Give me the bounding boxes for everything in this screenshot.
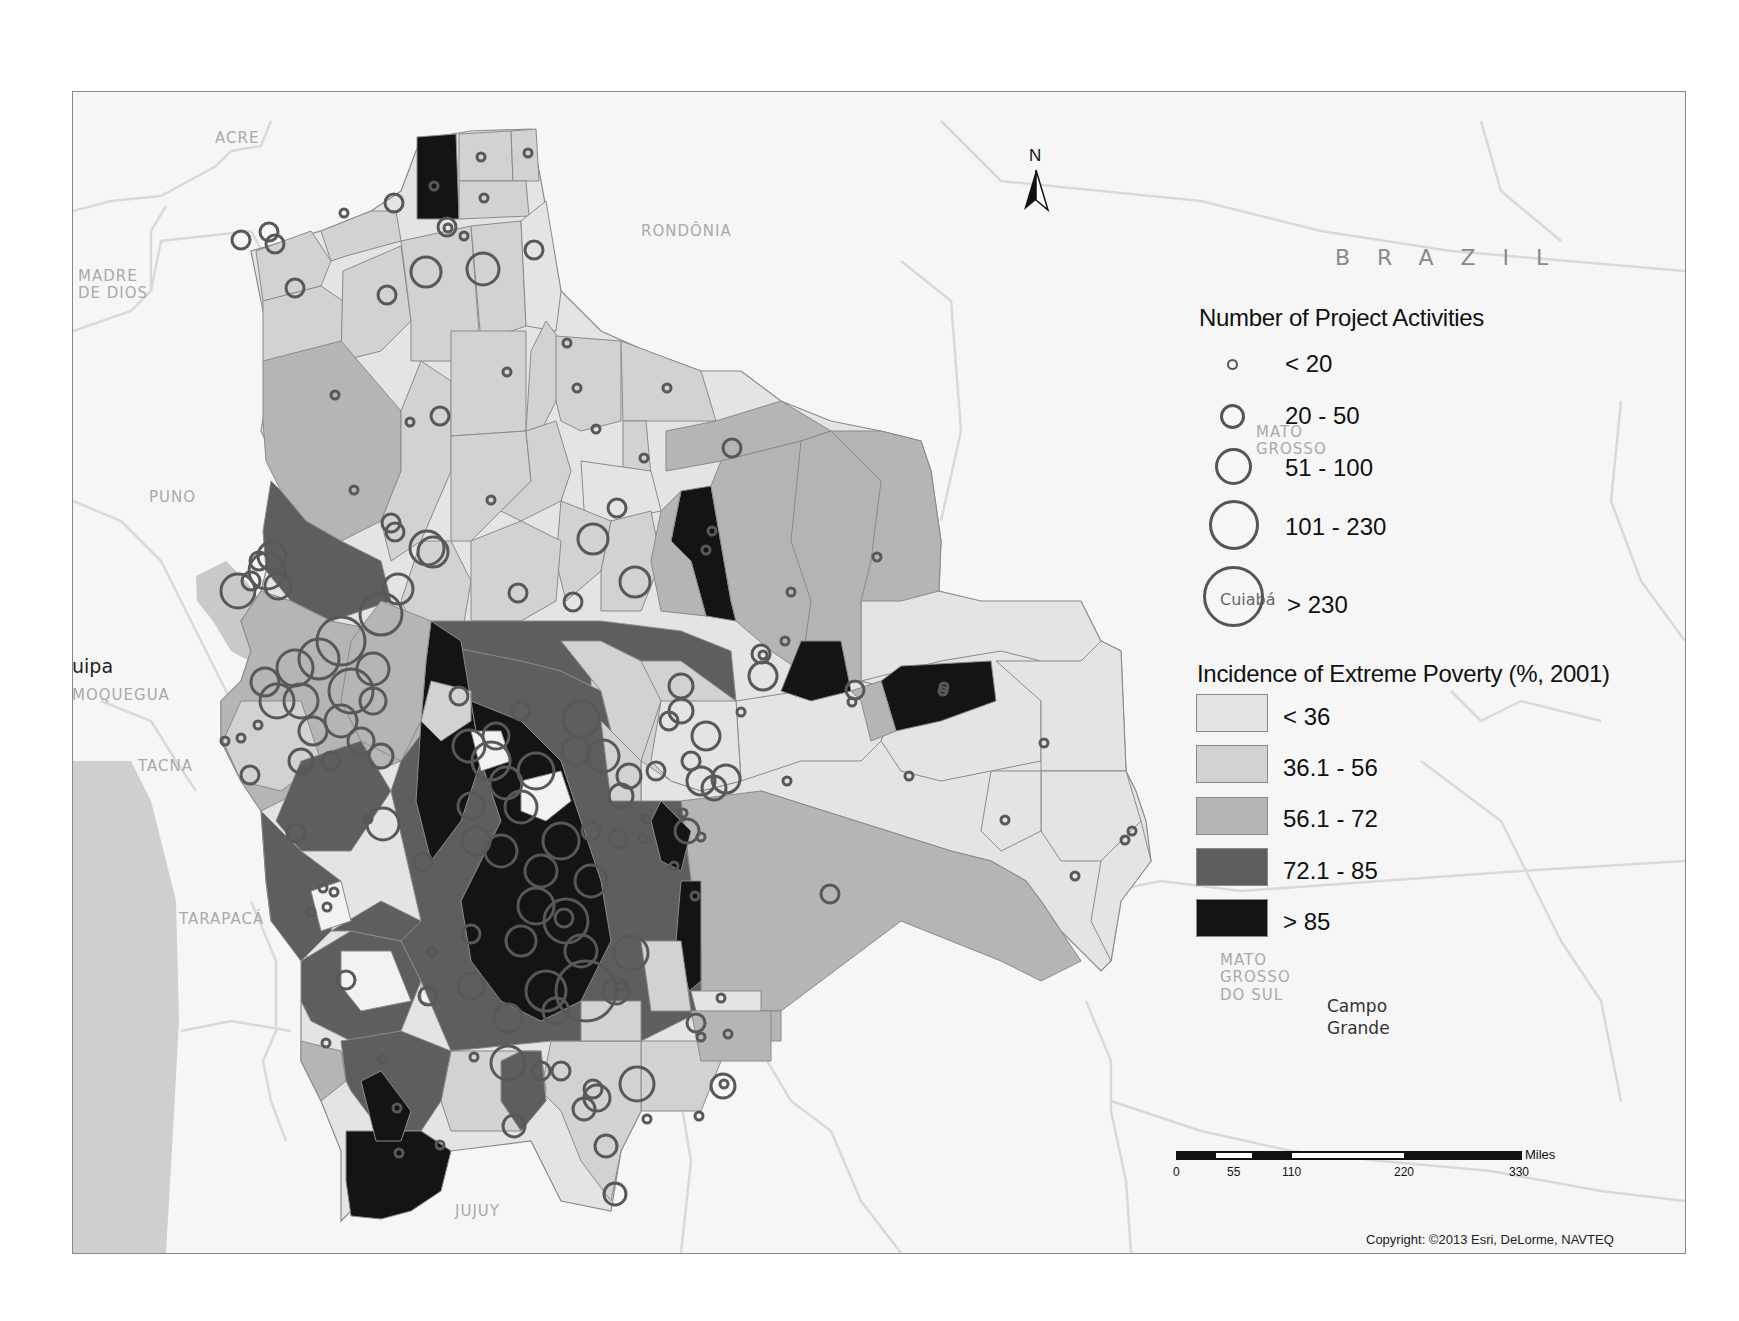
legend-label-lt20: < 20 [1285,350,1332,378]
legend-label-gt85: > 85 [1283,908,1330,936]
legend-swatch-gt85 [1196,899,1268,937]
legend-symbol-20-50 [1220,404,1245,429]
geo-label-rond-nia: RONDÔNIA [641,223,732,240]
geo-label-puno: PUNO [149,489,196,506]
scale-tick-220: 220 [1394,1165,1414,1179]
legend-label-51-100: 51 - 100 [1285,454,1373,482]
legend-title-poverty: Incidence of Extreme Poverty (%, 2001) [1197,660,1610,688]
legend-symbol-51-100 [1215,448,1252,485]
geo-label-mato-grosso-do-sul: MATO GROSSO DO SUL [1220,952,1291,1004]
geo-label-tacna: TACNA [138,758,193,775]
ocean [73,761,179,1253]
legend-label-36-56: 36.1 - 56 [1283,754,1378,782]
scale-tick-0: 0 [1173,1165,1180,1179]
legend-swatch-lt36 [1196,694,1268,732]
legend-swatch-36-56 [1196,745,1268,783]
north-arrow-label: N [1029,146,1041,166]
scale-bar-graphic [1176,1149,1536,1163]
country-label-brazil: BRAZIL [1335,245,1575,270]
scale-bar-unit: Miles [1525,1147,1555,1162]
city-label-arequipa: uipa [72,654,113,679]
geo-label-acre: ACRE [215,130,259,147]
legend-label-gt230: > 230 [1287,591,1348,619]
legend-label-56-72: 56.1 - 72 [1283,805,1378,833]
legend-label-101-230: 101 - 230 [1285,513,1386,541]
city-label-campo-grande: Campo Grande [1327,995,1390,1039]
scale-tick-330: 330 [1509,1165,1529,1179]
north-arrow: N [1018,146,1058,226]
geo-label-madre-de-dios: MADRE DE DIOS [78,268,148,303]
scale-tick-110: 110 [1282,1165,1301,1179]
legend-label-72-85: 72.1 - 85 [1283,857,1378,885]
legend-swatch-72-85 [1196,848,1268,886]
legend-symbol-gt230 [1203,566,1264,627]
legend-symbol-101-230 [1209,500,1259,550]
legend-label-lt36: < 36 [1283,703,1330,731]
copyright-text: Copyright: ©2013 Esri, DeLorme, NAVTEQ [1366,1232,1614,1247]
north-arrow-icon [1018,168,1058,228]
geo-label-jujuy: JUJUY [455,1203,500,1220]
geo-label-tarapac: TARAPACÁ [179,911,264,928]
legend-symbol-lt20 [1227,359,1238,370]
geo-label-moquegua: MOQUEGUA [72,687,170,704]
legend-label-20-50: 20 - 50 [1285,402,1360,430]
legend-title-activities: Number of Project Activities [1199,304,1484,332]
legend-swatch-56-72 [1196,797,1268,835]
scale-tick-55: 55 [1227,1165,1240,1179]
